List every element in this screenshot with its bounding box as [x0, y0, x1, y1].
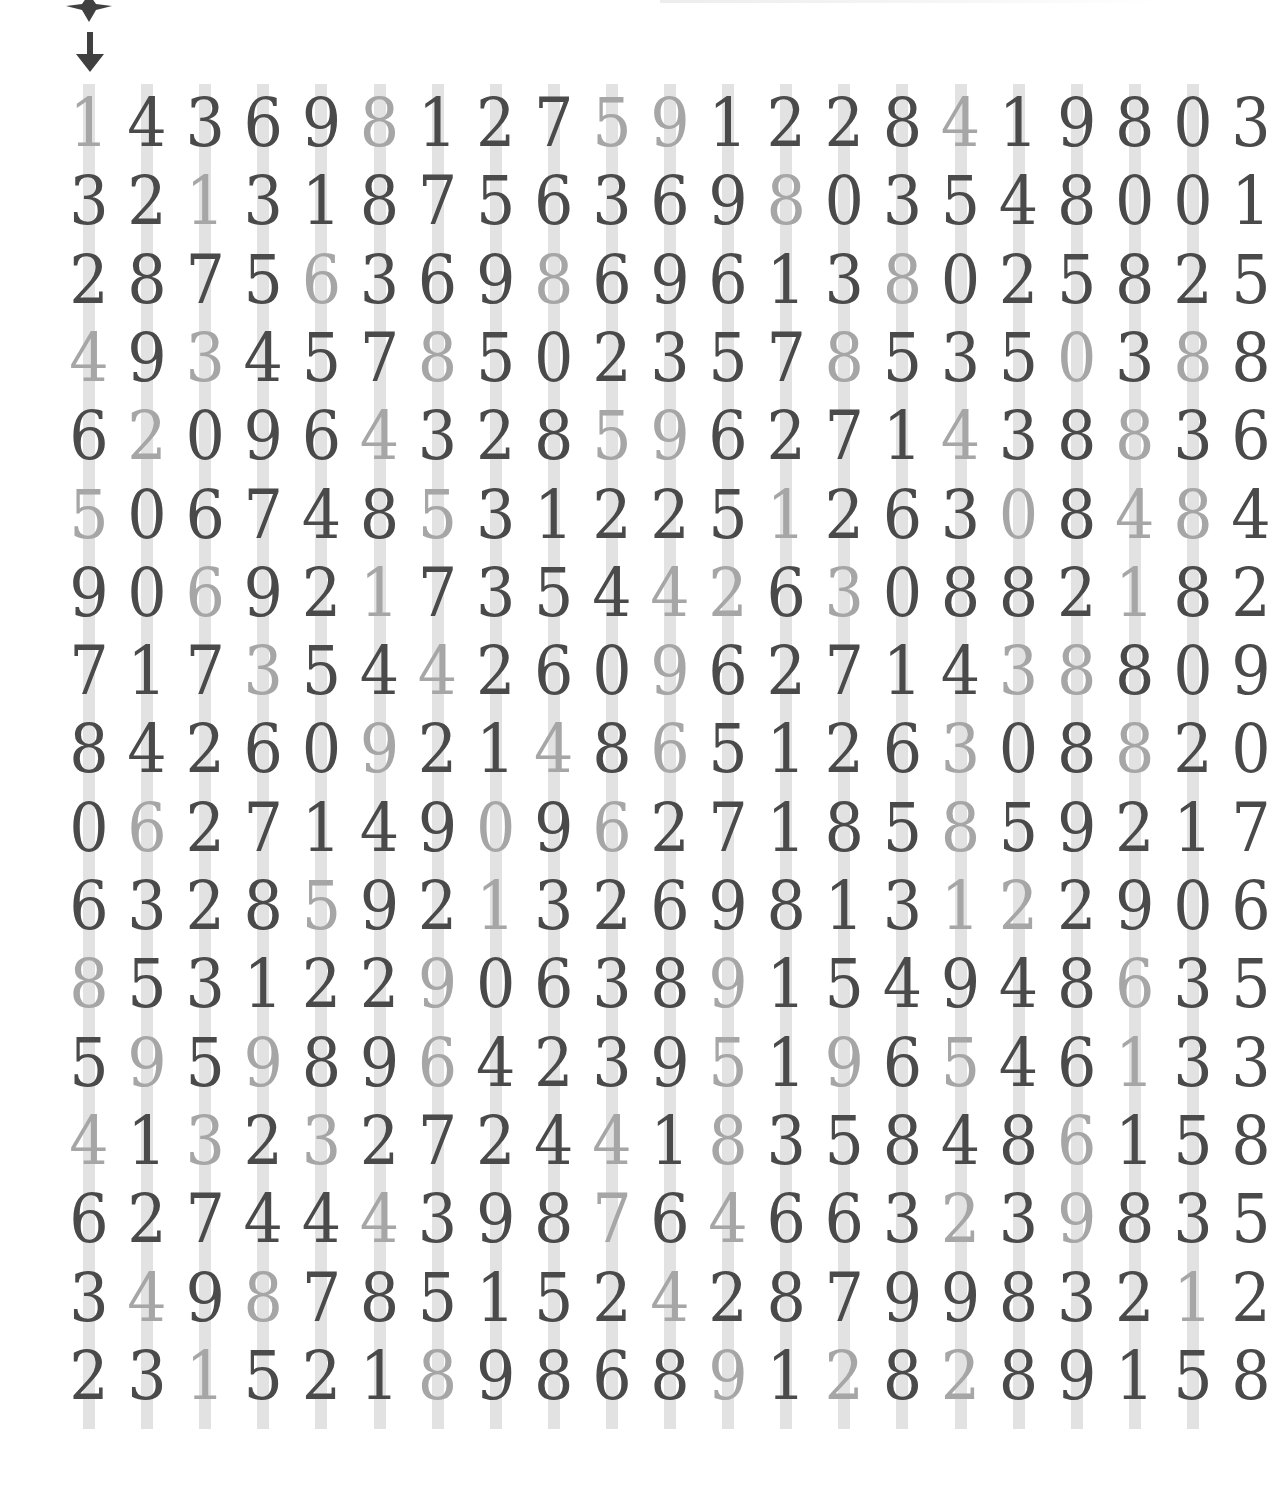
digit-cell-dark: 0 [1222, 707, 1280, 791]
digit-cell-dark: 9 [467, 1177, 525, 1261]
digit-cell-light: 2 [699, 551, 757, 635]
digit-cell-dark: 8 [990, 1255, 1048, 1339]
digit-cell-dark: 0 [932, 237, 990, 321]
digit-cell-light: 1 [467, 864, 525, 948]
digit-cell-dark: 1 [873, 394, 931, 478]
digit-cell-dark: 2 [641, 472, 699, 556]
digit-cell-light: 1 [1106, 1020, 1164, 1104]
digit-cell-dark: 3 [525, 864, 583, 948]
digit-cell-light: 2 [932, 1177, 990, 1261]
digit-cell-dark: 3 [873, 864, 931, 948]
digit-cell-dark: 2 [118, 159, 176, 243]
digit-cell-dark: 2 [292, 942, 350, 1026]
digit-cell-light: 0 [1048, 316, 1106, 400]
digit-cell-dark: 8 [351, 472, 409, 556]
digit-cell-dark: 8 [1106, 81, 1164, 165]
digit-cell-dark: 0 [815, 159, 873, 243]
digit-cell-dark: 9 [873, 1255, 931, 1339]
digit-cell-dark: 6 [1222, 394, 1280, 478]
digit-cell-dark: 5 [1048, 237, 1106, 321]
digit-row: 062714909627185859217 [60, 789, 1240, 867]
digit-cell-dark: 0 [118, 551, 176, 635]
digit-cell-dark: 6 [409, 237, 467, 321]
digit-cell-light: 9 [699, 1334, 757, 1418]
digit-cell-dark: 4 [234, 316, 292, 400]
digit-cell-dark: 8 [873, 81, 931, 165]
digit-cell-dark: 7 [815, 394, 873, 478]
digit-cell-dark: 9 [292, 81, 350, 165]
digit-cell-dark: 6 [699, 629, 757, 713]
digit-cell-dark: 8 [351, 1255, 409, 1339]
digit-cell-light: 1 [757, 472, 815, 556]
digit-cell-dark: 5 [292, 316, 350, 400]
digit-cell-dark: 6 [234, 707, 292, 791]
digit-cell-dark: 4 [351, 629, 409, 713]
digit-cell-dark: 6 [1222, 864, 1280, 948]
digit-cell-dark: 4 [292, 1177, 350, 1261]
digit-row: 906921735442630882182 [60, 554, 1240, 632]
digit-cell-dark: 0 [292, 707, 350, 791]
digit-cell-dark: 6 [1048, 1020, 1106, 1104]
digit-cell-light: 4 [60, 1099, 118, 1183]
digit-cell-dark: 8 [1164, 551, 1222, 635]
digit-cell-dark: 2 [1048, 864, 1106, 948]
digit-cell-dark: 7 [176, 1177, 234, 1261]
digit-cell-dark: 5 [1164, 1099, 1222, 1183]
digit-cell-light: 6 [1106, 942, 1164, 1026]
digit-cell-dark: 1 [118, 1099, 176, 1183]
digit-cell-dark: 8 [525, 394, 583, 478]
digit-cell-light: 4 [699, 1177, 757, 1261]
digit-cell-dark: 7 [292, 1255, 350, 1339]
digit-cell-dark: 7 [234, 786, 292, 870]
digit-cell-dark: 2 [699, 1255, 757, 1339]
digit-cell-dark: 7 [409, 551, 467, 635]
digit-cell-dark: 2 [292, 1334, 350, 1418]
digit-cell-light: 9 [641, 394, 699, 478]
digit-cell-dark: 9 [467, 1334, 525, 1418]
digit-cell-light: 9 [351, 707, 409, 791]
digit-cell-light: 5 [409, 472, 467, 556]
star-shape-icon [66, 0, 112, 24]
digit-cell-dark: 9 [234, 551, 292, 635]
digit-cell-dark: 5 [815, 942, 873, 1026]
digit-cell-light: 1 [176, 159, 234, 243]
digit-cell-dark: 7 [409, 1099, 467, 1183]
digit-cell-dark: 1 [757, 942, 815, 1026]
digit-cell-dark: 9 [351, 1020, 409, 1104]
digit-row: 493457850235785350388 [60, 319, 1240, 397]
digit-cell-light: 6 [641, 707, 699, 791]
digit-cell-dark: 6 [525, 629, 583, 713]
digit-cell-dark: 8 [1222, 1334, 1280, 1418]
digit-cell-dark: 3 [757, 1099, 815, 1183]
digit-cell-dark: 3 [118, 864, 176, 948]
digit-cell-dark: 2 [351, 1099, 409, 1183]
digit-cell-light: 4 [583, 1099, 641, 1183]
digit-cell-light: 2 [932, 1334, 990, 1418]
digit-cell-dark: 6 [234, 81, 292, 165]
digit-cell-light: 4 [641, 551, 699, 635]
digit-row: 620964328596271438836 [60, 397, 1240, 475]
digit-cell-dark: 9 [467, 237, 525, 321]
digit-cell-dark: 8 [351, 159, 409, 243]
digit-cell-dark: 2 [176, 864, 234, 948]
digit-cell-light: 4 [932, 81, 990, 165]
digit-cell-dark: 1 [757, 707, 815, 791]
digit-row: 321318756369803548001 [60, 162, 1240, 240]
digit-cell-dark: 0 [1164, 629, 1222, 713]
digit-cell-dark: 9 [699, 159, 757, 243]
digit-cell-dark: 2 [757, 629, 815, 713]
digit-cell-light: 3 [990, 629, 1048, 713]
digit-cell-dark: 2 [641, 786, 699, 870]
digit-cell-dark: 5 [932, 159, 990, 243]
digit-cell-dark: 2 [990, 237, 1048, 321]
digit-cell-dark: 6 [525, 942, 583, 1026]
digit-cell-dark: 8 [873, 1334, 931, 1418]
digit-cell-dark: 2 [409, 864, 467, 948]
digit-cell-dark: 6 [583, 237, 641, 321]
digit-cell-dark: 0 [1164, 159, 1222, 243]
digit-cell-dark: 3 [583, 159, 641, 243]
digit-cell-dark: 1 [409, 81, 467, 165]
digit-cell-dark: 1 [234, 942, 292, 1026]
down-arrow-icon [76, 32, 104, 72]
digit-cell-dark: 2 [815, 472, 873, 556]
